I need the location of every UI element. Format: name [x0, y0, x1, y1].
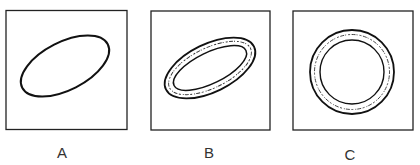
- panel-a: [6, 11, 127, 130]
- diagram-canvas: [0, 0, 420, 165]
- panel-label-b: B: [194, 144, 224, 161]
- ellipse-a: [11, 23, 118, 109]
- ellipse-b-outer: [155, 25, 264, 111]
- circle-c-texture: [315, 35, 390, 110]
- circle-c-outer: [310, 30, 394, 114]
- panel-c: [293, 11, 413, 130]
- panel-label-c: C: [335, 146, 365, 163]
- panel-label-a: A: [47, 144, 77, 161]
- panel-c-frame: [293, 11, 413, 130]
- circle-c-inner: [320, 40, 384, 104]
- panel-b: [151, 11, 270, 130]
